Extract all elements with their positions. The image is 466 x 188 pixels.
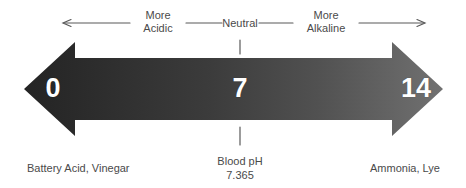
label-blood-ph-value: 7.365	[226, 169, 254, 182]
label-blood-ph-name: Blood pH	[217, 155, 262, 168]
ph-scale-figure: More Acidic Neutral More Alkaline 0 7 14…	[0, 0, 466, 188]
label-alkaline-examples: Ammonia, Lye	[370, 162, 440, 175]
label-more-acidic-line1: More	[134, 9, 182, 22]
scale-value-mid: 7	[232, 75, 247, 102]
label-neutral: Neutral	[222, 17, 257, 30]
scale-value-min: 0	[45, 75, 60, 102]
scale-value-max: 14	[401, 75, 431, 102]
label-more-acidic-line2: Acidic	[134, 22, 182, 35]
label-acidic-examples: Battery Acid, Vinegar	[27, 162, 130, 175]
label-more-acidic: More Acidic	[134, 9, 182, 35]
label-more-alkaline-line2: Alkaline	[296, 22, 356, 35]
label-more-alkaline: More Alkaline	[296, 9, 356, 35]
label-more-alkaline-line1: More	[296, 9, 356, 22]
